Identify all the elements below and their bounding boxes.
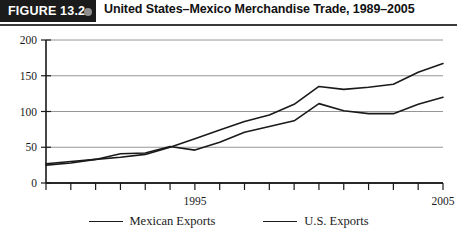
chart-series-lines — [46, 64, 443, 166]
legend-label: U.S. Exports — [304, 214, 368, 229]
y-axis-tick-label: 50 — [26, 141, 38, 153]
chart-gridlines — [46, 40, 443, 183]
y-axis-tick-label: 100 — [20, 106, 38, 118]
legend-line-swatch — [263, 221, 297, 222]
x-axis-tick-label: 2005 — [432, 195, 455, 207]
legend-item-mexican-exports: Mexican Exports — [89, 214, 216, 229]
y-axis-tick-label: 0 — [31, 177, 37, 189]
line-chart-svg: 050100150200 19952005 — [0, 27, 457, 207]
figure-container: FIGURE 13.2 United States–Mexico Merchan… — [0, 0, 457, 238]
series-line — [46, 97, 443, 165]
chart-legend: Mexican Exports U.S. Exports — [0, 208, 457, 234]
figure-header: FIGURE 13.2 United States–Mexico Merchan… — [0, 0, 457, 25]
filled-circle-icon — [84, 8, 92, 16]
legend-line-swatch — [89, 221, 123, 222]
figure-number-banner: FIGURE 13.2 — [0, 0, 96, 22]
chart-x-axis-ticks — [46, 183, 443, 190]
figure-title: United States–Mexico Merchandise Trade, … — [104, 2, 415, 16]
header-divider — [0, 24, 457, 26]
legend-label: Mexican Exports — [130, 214, 216, 229]
chart-x-axis-labels: 19952005 — [183, 195, 454, 207]
y-axis-tick-label: 150 — [20, 70, 38, 82]
y-axis-tick-label: 200 — [20, 34, 38, 46]
chart-plot-area: 050100150200 19952005 — [0, 27, 457, 207]
legend-item-us-exports: U.S. Exports — [263, 214, 368, 229]
figure-number-label: FIGURE 13.2 — [8, 4, 85, 18]
chart-y-axis-labels: 050100150200 — [20, 34, 38, 189]
x-axis-tick-label: 1995 — [183, 195, 206, 207]
